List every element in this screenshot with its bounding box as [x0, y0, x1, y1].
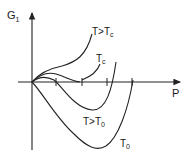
curve-t-greater-t0	[32, 62, 116, 110]
gibbs-energy-diagram: G1 P T>Tc Tc T>T0 T0	[0, 0, 189, 160]
label-t-greater-tc: T>Tc	[92, 26, 114, 38]
x-axis-label: P	[172, 87, 179, 99]
label-t0: T0	[120, 138, 130, 150]
y-axis-label: G1	[7, 9, 20, 23]
label-tc: Tc	[96, 53, 106, 65]
label-t-greater-t0: T>T0	[83, 116, 105, 128]
curve-t-greater-tc	[32, 34, 92, 82]
curve-t0	[32, 80, 133, 148]
tc-leader-line	[82, 64, 100, 80]
